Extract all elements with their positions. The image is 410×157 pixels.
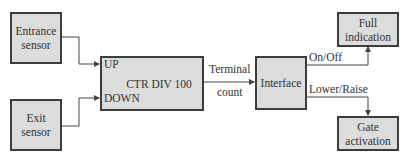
wire-entrance-to-up xyxy=(61,37,99,64)
lower-raise-label: Lower/Raise xyxy=(309,83,368,96)
gate-activation-block: Gate activation xyxy=(337,116,399,151)
interface-label: Interface xyxy=(261,76,302,90)
gate-activation-label-1: Gate xyxy=(345,120,390,134)
counter-input-down: DOWN xyxy=(104,92,140,105)
counter-input-up: UP xyxy=(104,58,119,71)
exit-sensor-label-1: Exit xyxy=(21,111,50,125)
counter-title: CTR DIV 100 xyxy=(126,77,192,91)
gate-activation-label-2: activation xyxy=(345,134,390,148)
full-indication-block: Full indication xyxy=(337,12,399,47)
terminal-count-label-1: Terminal xyxy=(209,63,250,76)
terminal-count-label-2: count xyxy=(217,86,243,99)
exit-sensor-block: Exit sensor xyxy=(10,99,62,151)
entrance-sensor-label-1: Entrance xyxy=(16,24,57,38)
entrance-sensor-block: Entrance sensor xyxy=(10,12,62,64)
entrance-sensor-label-2: sensor xyxy=(16,38,57,52)
wire-lower-raise xyxy=(306,97,368,115)
on-off-label: On/Off xyxy=(309,51,342,64)
wire-exit-to-down xyxy=(61,98,99,126)
exit-sensor-label-2: sensor xyxy=(21,125,50,139)
full-indication-label-2: indication xyxy=(345,30,391,44)
full-indication-label-1: Full xyxy=(345,16,391,30)
interface-block: Interface xyxy=(255,56,307,110)
